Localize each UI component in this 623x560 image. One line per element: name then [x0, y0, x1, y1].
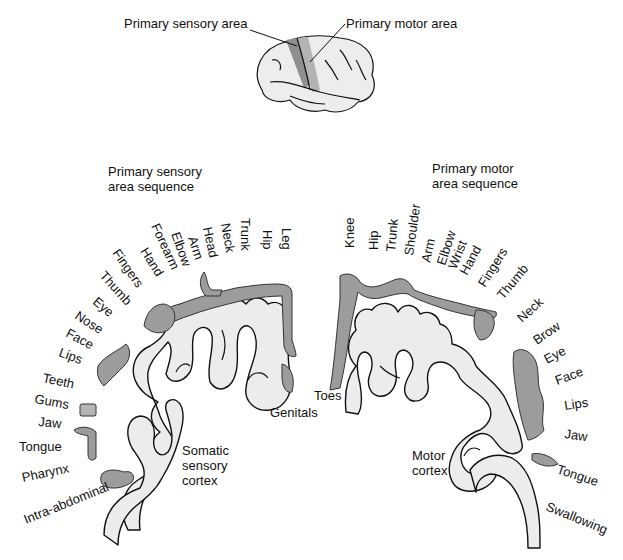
brain-inset: Primary sensory area Primary motor area [124, 16, 458, 112]
motor-label-eye: Eye [541, 343, 568, 367]
sensory-title-line1: Primary sensory [108, 164, 202, 179]
sensory-label-pharynx: Pharynx [21, 460, 71, 485]
sensory-label-hip: Hip [260, 230, 275, 250]
sensory-label-intra-abdominal: Intra-abdominal [22, 479, 111, 527]
motor-label-knee: Knee [342, 218, 357, 248]
motor-title-line1: Primary motor [432, 161, 514, 176]
motor-homunculus-tongue [532, 453, 558, 466]
sensory-label-genitals: Genitals [270, 405, 318, 420]
motor-title-line2: area sequence [432, 176, 518, 191]
sensory-title-line2: area sequence [108, 179, 194, 194]
sensory-cortex-label-1: Somatic [182, 443, 229, 458]
sensory-label-trunk: Trunk [238, 218, 253, 251]
sensory-cortex-label-3: cortex [182, 473, 218, 488]
sensory-homunculus-teeth [80, 404, 96, 416]
motor-label-swallowing: Swallowing [544, 499, 610, 537]
motor-cortex-lower [470, 455, 540, 548]
motor-section: Primary motor area sequence Motor cortex… [314, 161, 610, 548]
motor-homunculus-hand [474, 310, 494, 340]
label-primary-motor-area: Primary motor area [346, 16, 458, 31]
sensory-cortex-label-2: sensory [182, 458, 228, 473]
motor-label-jaw: Jaw [564, 426, 590, 444]
sensory-section: Primary sensory area sequence Somatic se… [19, 164, 318, 545]
motor-label-lips: Lips [563, 395, 589, 413]
motor-cortex-label-1: Motor [412, 448, 446, 463]
sensory-homunculus-head-neck [200, 272, 222, 296]
motor-label-hip: Hip [366, 230, 381, 250]
sensory-label-gums: Gums [33, 391, 70, 412]
sensory-homunculus-tongue [74, 427, 96, 460]
motor-cortex-label-2: cortex [412, 463, 448, 478]
sensory-label-leg: Leg [279, 228, 294, 250]
sensory-homunculus-hand [144, 304, 175, 333]
label-primary-sensory-area: Primary sensory area [124, 16, 248, 31]
sensory-label-teeth: Teeth [41, 370, 75, 391]
motor-label-trunk: Trunk [383, 218, 401, 252]
motor-label-face: Face [553, 364, 585, 388]
homunculus-diagram: Primary sensory area Primary motor area … [0, 0, 623, 560]
motor-label-tongue: Tongue [555, 462, 600, 489]
sensory-label-neck: Neck [218, 222, 238, 254]
sensory-label-lips: Lips [57, 345, 85, 367]
sensory-label-tongue: Tongue [19, 439, 62, 454]
motor-label-neck: Neck [514, 294, 546, 325]
sensory-homunculus-face [97, 344, 129, 386]
sensory-label-jaw: Jaw [38, 414, 63, 431]
motor-label-brow: Brow [530, 318, 563, 348]
motor-label-toes: Toes [314, 388, 342, 403]
